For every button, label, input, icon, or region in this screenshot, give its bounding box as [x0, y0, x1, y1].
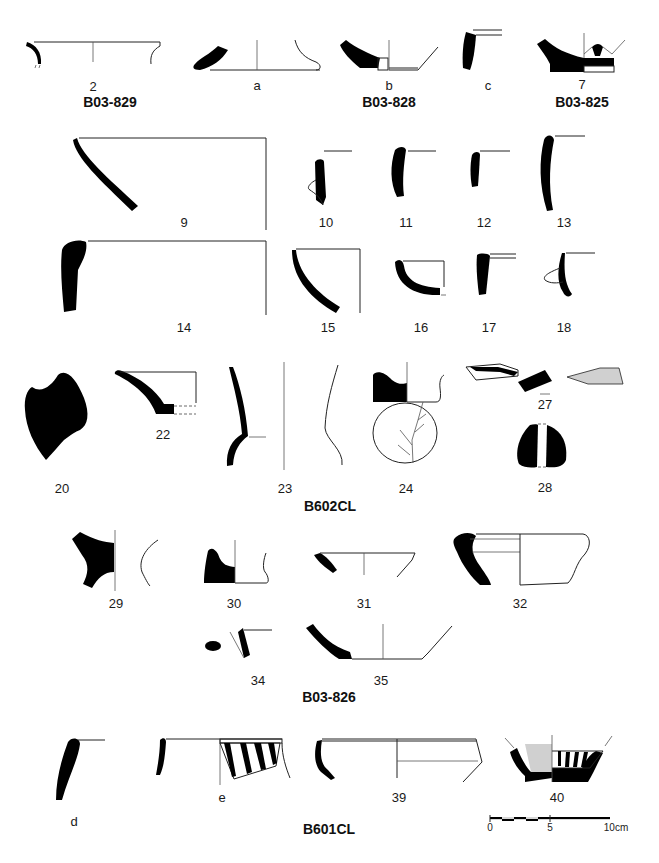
label-e: e — [218, 791, 225, 804]
sherd-13 — [541, 136, 585, 212]
label-32: 32 — [513, 597, 527, 610]
scale-tick-10: 10cm — [604, 823, 628, 833]
sherd-18 — [544, 253, 595, 296]
sherd-27 — [466, 364, 623, 394]
label-c: c — [485, 79, 492, 92]
sherd-40 — [505, 735, 612, 782]
sherd-c — [463, 30, 502, 70]
label-9: 9 — [180, 216, 187, 229]
sherd-16 — [395, 260, 446, 295]
label-35: 35 — [374, 674, 388, 687]
sherd-24 — [373, 362, 444, 463]
label-18: 18 — [557, 321, 571, 334]
sherd-11 — [391, 147, 436, 197]
label-30: 30 — [227, 597, 241, 610]
sherd-20 — [25, 373, 88, 460]
label-22: 22 — [156, 428, 170, 441]
pottery-plate — [0, 0, 659, 863]
sherd-22 — [115, 370, 196, 414]
scale-bar — [490, 815, 610, 822]
label-29: 29 — [109, 597, 123, 610]
sherd-29 — [72, 530, 158, 591]
sherd-b — [340, 40, 438, 70]
label-16: 16 — [414, 321, 428, 334]
sherd-32 — [453, 533, 589, 585]
sherd-14 — [61, 240, 266, 315]
label-2: 2 — [89, 80, 96, 93]
context-b03-825: B03-825 — [555, 95, 609, 109]
context-b03-828: B03-828 — [362, 95, 416, 109]
sherd-2 — [26, 42, 160, 68]
label-7: 7 — [578, 78, 585, 91]
label-14: 14 — [177, 321, 191, 334]
label-40: 40 — [550, 791, 564, 804]
sherd-7 — [537, 33, 625, 72]
label-17: 17 — [482, 321, 496, 334]
sherd-35 — [306, 624, 452, 659]
sherd-10 — [308, 151, 352, 205]
context-b03-829: B03-829 — [83, 95, 137, 109]
label-10: 10 — [319, 216, 333, 229]
label-24: 24 — [399, 482, 413, 495]
sherd-a — [193, 40, 320, 70]
label-39: 39 — [392, 791, 406, 804]
label-27: 27 — [538, 398, 552, 411]
label-13: 13 — [557, 216, 571, 229]
sherd-39 — [315, 739, 482, 782]
label-28: 28 — [538, 481, 552, 494]
label-34: 34 — [251, 674, 265, 687]
label-a: a — [253, 79, 260, 92]
sherd-e — [156, 738, 290, 785]
label-d: d — [70, 815, 77, 828]
sherd-34 — [205, 628, 272, 658]
sherd-9 — [73, 138, 266, 230]
sherd-d — [56, 738, 105, 800]
sherd-31 — [314, 553, 415, 577]
sherd-12 — [471, 151, 511, 187]
label-11: 11 — [399, 216, 413, 229]
context-b601cl: B601CL — [303, 822, 355, 836]
label-15: 15 — [321, 321, 335, 334]
sherd-30 — [204, 540, 268, 583]
label-20: 20 — [55, 482, 69, 495]
label-31: 31 — [357, 597, 371, 610]
context-b602cl: B602CL — [304, 499, 356, 513]
scale-tick-5: 5 — [547, 823, 553, 833]
sherd-17 — [477, 254, 516, 295]
sherd-23 — [227, 362, 342, 470]
sherd-15 — [292, 249, 360, 313]
label-12: 12 — [477, 216, 491, 229]
sherd-28 — [517, 424, 566, 468]
scale-tick-0: 0 — [487, 823, 493, 833]
context-b03-826: B03-826 — [302, 690, 356, 704]
label-23: 23 — [278, 482, 292, 495]
label-b: b — [385, 79, 392, 92]
